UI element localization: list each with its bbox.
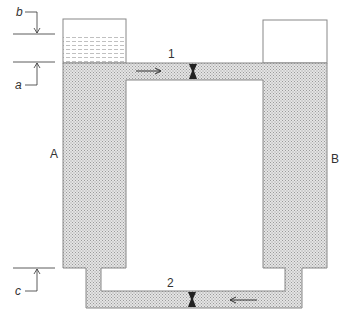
tank-b-upper xyxy=(263,20,327,63)
dimension-c: c xyxy=(13,268,55,298)
pipe-2-label: 2 xyxy=(167,276,174,290)
tank-a-upper xyxy=(63,19,126,63)
pipe-1-label: 1 xyxy=(168,47,175,61)
tank-a-label: A xyxy=(50,147,58,161)
dimension-b: b xyxy=(13,5,55,34)
dimension-b-label: b xyxy=(16,5,23,19)
dimension-a: a xyxy=(13,62,55,92)
dimension-a-label: a xyxy=(15,78,22,92)
tank-b-label: B xyxy=(331,152,339,166)
dimension-c-label: c xyxy=(15,284,21,298)
tank-diagram: 1 2 A B b a c xyxy=(0,0,346,320)
fluid-system xyxy=(63,63,327,308)
